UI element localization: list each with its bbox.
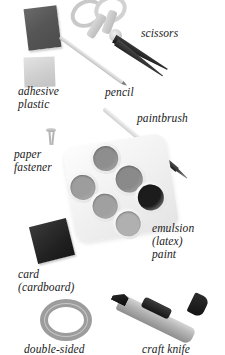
label-card: card	[18, 268, 39, 281]
illustration-canvas: scissorsadhesiveplasticpencilpaintbrushp…	[0, 0, 225, 355]
label-paint: paint	[152, 248, 176, 261]
scissors-blade-lower	[114, 39, 166, 80]
double-sided-tape-inner-edge	[44, 303, 88, 337]
label-latex: (latex)	[152, 235, 183, 248]
label-pencil: pencil	[105, 86, 134, 99]
label-cardboard: (cardboard)	[18, 281, 74, 294]
label-paper: paper	[14, 148, 41, 161]
scissors-blade-upper	[112, 35, 170, 74]
label-paintbrush: paintbrush	[137, 112, 188, 125]
paper-fastener-object	[45, 128, 57, 145]
paintbrush-bristles	[176, 168, 189, 180]
craft-knife-end-cap	[186, 292, 210, 318]
label-adhesive: adhesive	[18, 85, 59, 98]
label-emulsion: emulsion	[152, 222, 194, 235]
craft-knife-object	[117, 283, 211, 339]
label-fastener: fastener	[14, 161, 52, 174]
label-craftknife: craft knife	[142, 343, 190, 355]
label-doublesided: double-sided	[24, 343, 85, 355]
label-plastic: plastic	[18, 98, 49, 111]
cardboard-square	[29, 218, 75, 264]
plastic-square	[23, 56, 55, 87]
adhesive-square	[24, 5, 62, 51]
paper-fastener-leg-right	[51, 131, 54, 145]
label-scissors: scissors	[141, 27, 178, 40]
